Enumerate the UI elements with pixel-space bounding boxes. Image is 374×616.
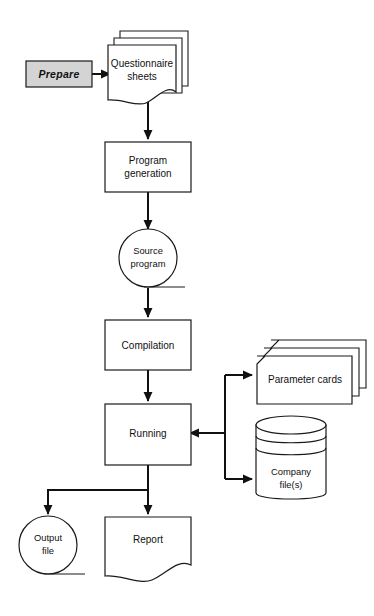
output-file-label-line2: file <box>42 545 54 556</box>
edge-running-to-output-file <box>48 490 148 514</box>
flowchart-canvas: Prepare Questionnaire sheets Program gen… <box>0 0 374 616</box>
running-label: Running <box>129 428 166 439</box>
output-file-label-line1: Output <box>34 532 63 543</box>
company-files-label-line2: file(s) <box>280 479 303 490</box>
node-parameter-cards[interactable]: Parameter cards <box>257 340 366 404</box>
questionnaire-label-line2: sheets <box>127 71 156 82</box>
compilation-label: Compilation <box>122 340 175 351</box>
source-program-label-line1: Source <box>133 245 163 256</box>
report-label: Report <box>133 534 163 545</box>
node-questionnaire-sheets[interactable]: Questionnaire sheets <box>108 31 188 104</box>
node-output-file[interactable]: Output file <box>19 516 85 574</box>
prepare-label: Prepare <box>38 68 79 80</box>
report-document[interactable] <box>105 517 191 581</box>
parameter-cards-label: Parameter cards <box>268 374 342 385</box>
program-generation-label-line1: Program <box>129 155 167 166</box>
node-program-generation[interactable]: Program generation <box>105 142 191 192</box>
company-files-top-disk <box>256 416 326 434</box>
questionnaire-label-line1: Questionnaire <box>111 58 174 69</box>
company-files-label-line1: Company <box>271 466 311 477</box>
source-program-label-line2: program <box>131 258 166 269</box>
node-source-program[interactable]: Source program <box>119 229 185 287</box>
node-report[interactable]: Report <box>105 517 191 581</box>
program-generation-label-line2: generation <box>124 168 171 179</box>
node-running[interactable]: Running <box>105 404 191 465</box>
node-prepare[interactable]: Prepare <box>26 61 92 87</box>
node-company-files[interactable]: Company file(s) <box>256 416 326 499</box>
flowchart-diagram: Prepare Questionnaire sheets Program gen… <box>0 0 374 616</box>
node-compilation[interactable]: Compilation <box>105 320 191 370</box>
